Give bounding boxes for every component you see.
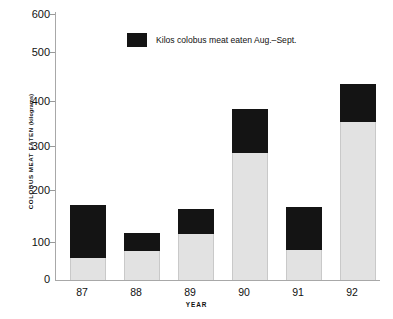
x-axis-line — [55, 280, 380, 281]
y-tick-100: 100 — [22, 237, 50, 248]
x-tick-90: 90 — [214, 286, 274, 298]
bar-group-89[interactable] — [178, 209, 214, 280]
bar-segment-dark-89 — [178, 209, 214, 235]
y-tick-500: 500 — [22, 47, 50, 58]
bar-segment-dark-91 — [286, 207, 322, 249]
plot-area — [56, 12, 380, 280]
x-axis-title: YEAR — [0, 301, 393, 308]
x-tick-91: 91 — [268, 286, 328, 298]
x-tick-87: 87 — [52, 286, 112, 298]
y-tick-600: 600 — [22, 9, 50, 20]
colobus-meat-bar-chart: COLOBUS MEAT EATEN (kilograms) 600 500 4… — [0, 0, 393, 319]
y-axis-ticks: 600 500 400 300 200 100 0 — [0, 0, 50, 319]
bar-segment-light-88 — [124, 251, 160, 280]
x-tick-88: 88 — [106, 286, 166, 298]
bar-group-88[interactable] — [124, 233, 160, 281]
bar-segment-dark-87 — [70, 205, 106, 258]
bar-segment-light-91 — [286, 250, 322, 280]
bar-segment-light-87 — [70, 258, 106, 280]
y-tick-300: 300 — [22, 141, 50, 152]
bar-segment-light-89 — [178, 234, 214, 280]
bar-segment-light-90 — [232, 153, 268, 280]
bar-group-91[interactable] — [286, 207, 322, 280]
bar-segment-dark-88 — [124, 233, 160, 252]
y-tick-400: 400 — [22, 96, 50, 107]
bar-segment-light-92 — [340, 122, 376, 280]
x-tick-89: 89 — [160, 286, 220, 298]
legend-swatch-icon — [127, 33, 147, 47]
bar-segment-dark-90 — [232, 109, 268, 153]
chart-legend: Kilos colobus meat eaten Aug.–Sept. — [127, 33, 296, 47]
bar-group-87[interactable] — [70, 205, 106, 280]
y-tick-200: 200 — [22, 185, 50, 196]
y-tick-0: 0 — [22, 274, 50, 285]
legend-label: Kilos colobus meat eaten Aug.–Sept. — [156, 35, 296, 45]
bar-group-90[interactable] — [232, 109, 268, 280]
x-tick-92: 92 — [322, 286, 382, 298]
bar-group-92[interactable] — [340, 84, 376, 280]
bar-segment-dark-92 — [340, 84, 376, 122]
